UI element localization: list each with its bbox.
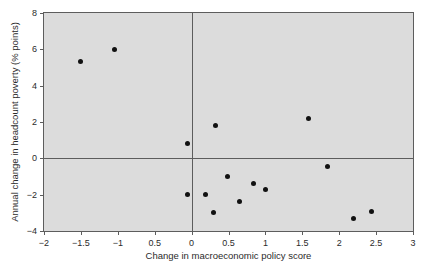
y-axis-tick-label: −2: [27, 190, 37, 200]
x-axis-tick: [339, 231, 340, 235]
y-axis-title: Annual change in headcount poverty (% po…: [8, 12, 22, 232]
data-point: [112, 47, 117, 52]
y-axis-tick: [40, 158, 44, 159]
x-axis-tick: [265, 231, 266, 235]
data-point: [251, 181, 256, 186]
y-axis-tick: [40, 195, 44, 196]
y-axis-tick-label: 2: [32, 117, 37, 127]
x-axis-tick-label: 3: [410, 238, 415, 248]
x-axis-tick-label: 2.5: [370, 238, 383, 248]
x-axis-tick: [81, 231, 82, 235]
zero-line-vertical: [192, 13, 193, 231]
data-point: [225, 174, 230, 179]
data-point: [211, 210, 216, 215]
x-axis-tick: [44, 231, 45, 235]
plot-area: 86420−2−4−2−1.5−10.500.511.522.53: [43, 12, 414, 232]
data-point: [351, 216, 356, 221]
zero-line-horizontal: [44, 158, 413, 159]
x-axis-tick: [229, 231, 230, 235]
x-axis-tick: [118, 231, 119, 235]
x-axis-tick-label: 0: [189, 238, 194, 248]
y-axis-tick: [40, 49, 44, 50]
data-point: [185, 192, 190, 197]
data-point: [263, 187, 268, 192]
x-axis-tick: [302, 231, 303, 235]
x-axis-tick: [192, 231, 193, 235]
y-axis-tick-label: 4: [32, 81, 37, 91]
x-axis-tick: [413, 231, 414, 235]
x-axis-tick-label: 0.5: [148, 238, 161, 248]
x-axis-tick-label: −2: [39, 238, 49, 248]
data-point: [369, 209, 374, 214]
x-axis-tick-label: 0.5: [222, 238, 235, 248]
y-axis-tick-label: −4: [27, 226, 37, 236]
data-point: [185, 141, 190, 146]
x-axis-tick-label: −1.5: [72, 238, 90, 248]
y-axis-tick: [40, 122, 44, 123]
data-point: [325, 164, 330, 169]
x-axis-title: Change in macroeconomic policy score: [43, 250, 414, 261]
x-axis-tick-label: 1: [263, 238, 268, 248]
y-axis-tick-label: 8: [32, 8, 37, 18]
scatter-chart: 86420−2−4−2−1.5−10.500.511.522.53 Change…: [0, 0, 426, 273]
y-axis-tick: [40, 13, 44, 14]
data-point: [213, 123, 218, 128]
data-point: [237, 199, 242, 204]
x-axis-tick-label: 1.5: [296, 238, 309, 248]
x-axis-tick: [155, 231, 156, 235]
y-axis-tick: [40, 86, 44, 87]
x-axis-tick: [376, 231, 377, 235]
data-point: [203, 192, 208, 197]
y-axis-tick-label: 6: [32, 44, 37, 54]
data-point: [78, 59, 83, 64]
x-axis-tick-label: −1: [113, 238, 123, 248]
x-axis-tick-label: 2: [337, 238, 342, 248]
data-point: [306, 116, 311, 121]
y-axis-tick-label: 0: [32, 153, 37, 163]
